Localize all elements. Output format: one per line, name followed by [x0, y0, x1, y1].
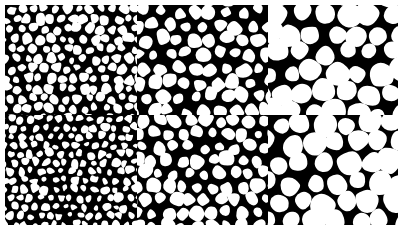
microstructure-image — [137, 5, 268, 115]
panel-bottom-middle — [137, 115, 268, 225]
micrograph-figure — [0, 0, 402, 231]
microstructure-image — [268, 115, 398, 225]
microstructure-image — [268, 5, 398, 115]
panel-top-right — [268, 5, 398, 115]
microstructure-image — [137, 115, 268, 225]
panel-bottom-left — [5, 115, 137, 225]
panel-bottom-right — [268, 115, 398, 225]
microstructure-image — [5, 115, 137, 225]
panel-top-left — [5, 5, 137, 115]
microstructure-image — [5, 5, 137, 115]
panel-top-middle — [137, 5, 268, 115]
